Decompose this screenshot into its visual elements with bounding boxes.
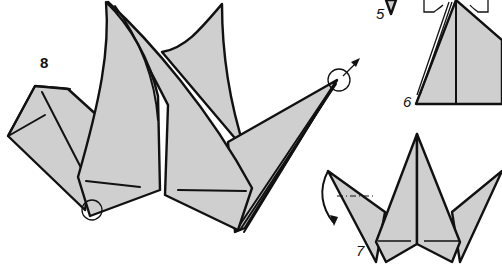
step-8-figure — [8, 2, 360, 232]
step-5-figure — [386, 0, 396, 14]
right-wing-7 — [452, 171, 502, 262]
pull-arrowhead — [351, 58, 360, 67]
step-label-7: 7 — [356, 242, 364, 259]
right-body-7 — [417, 134, 460, 262]
kite-body — [416, 0, 502, 104]
origami-diagram — [0, 0, 502, 268]
left-body-7 — [376, 134, 417, 262]
step-7-figure — [322, 134, 502, 262]
step-label-5: 5 — [376, 5, 384, 22]
step-6-figure — [416, 0, 502, 104]
step-label-6: 6 — [403, 93, 411, 110]
step-label-8: 8 — [40, 54, 48, 71]
